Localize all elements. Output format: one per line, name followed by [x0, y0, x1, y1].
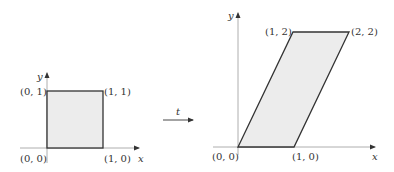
right-figure: (0, 0) (1, 0) (1, 2) (2, 2) x y: [212, 10, 378, 162]
label-x-axis-left: x: [138, 153, 144, 164]
label-top-left-right: (1, 2): [265, 26, 292, 37]
label-origin-right: (0, 0): [212, 151, 239, 162]
parallelogram: [238, 32, 349, 147]
left-figure: (0, 0) (1, 0) (0, 1) (1, 1) x y: [20, 71, 144, 164]
label-top-right-right: (2, 2): [351, 26, 378, 37]
label-origin-left: (0, 0): [20, 153, 47, 164]
label-corner-left: (1, 1): [104, 86, 131, 97]
label-x1-right: (1, 0): [292, 151, 319, 162]
label-y-axis-left: y: [36, 71, 43, 82]
transform-arrow: t: [163, 106, 193, 120]
label-y-axis-right: y: [227, 10, 234, 21]
transform-label: t: [176, 106, 181, 117]
diagram-canvas: (0, 0) (1, 0) (0, 1) (1, 1) x y t (0, 0)…: [0, 0, 394, 172]
label-y1-left: (0, 1): [20, 86, 47, 97]
label-x1-left: (1, 0): [104, 153, 131, 164]
label-x-axis-right: x: [372, 151, 378, 162]
unit-square: [47, 91, 103, 148]
